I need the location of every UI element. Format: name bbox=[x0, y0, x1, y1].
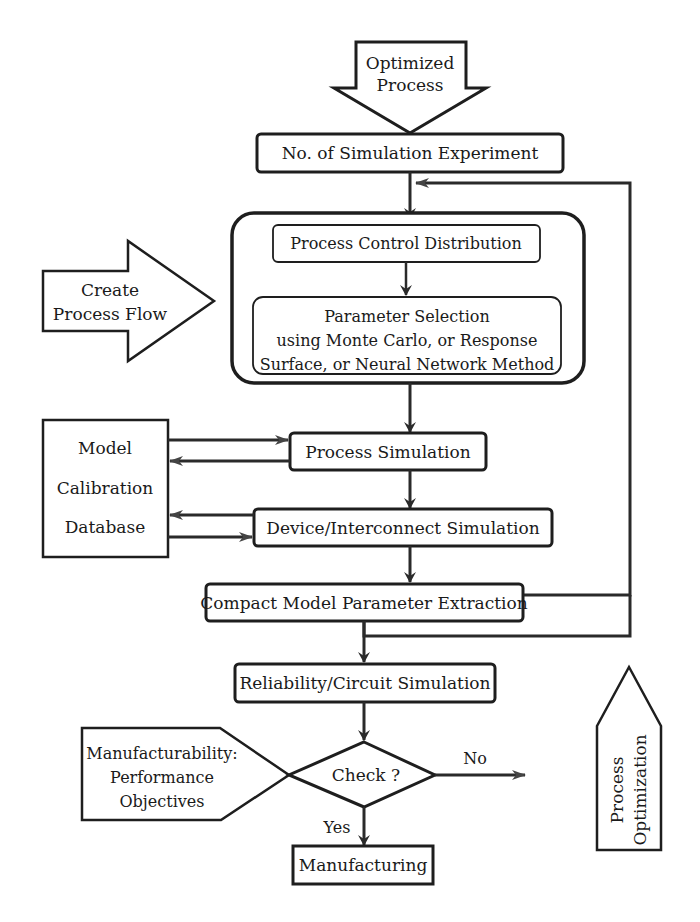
process-optimization-line1: Process bbox=[607, 757, 627, 824]
process-simulation-box: Process Simulation bbox=[290, 433, 486, 470]
create-process-flow-arrow: Create Process Flow bbox=[43, 241, 214, 361]
process-control-label: Process Control Distribution bbox=[290, 234, 521, 253]
model-calibration-database: Model Calibration Database bbox=[43, 420, 168, 557]
objectives-line3: Objectives bbox=[119, 792, 204, 811]
device-simulation-box: Device/Interconnect Simulation bbox=[254, 509, 552, 546]
process-optimization-line2: Optimization bbox=[630, 734, 650, 845]
create-process-flow-line2: Process Flow bbox=[53, 304, 168, 324]
objectives-shape: Manufacturability: Performance Objective… bbox=[82, 728, 289, 820]
check-decision: Check ? bbox=[289, 742, 435, 807]
manufacturing-label: Manufacturing bbox=[299, 855, 428, 875]
yes-label: Yes bbox=[323, 818, 351, 837]
simulation-experiment-box: No. of Simulation Experiment bbox=[257, 134, 563, 172]
optimized-process-line2: Process bbox=[377, 75, 444, 95]
optimized-process-arrow: Optimized Process bbox=[334, 42, 486, 133]
parameter-selection-line2: using Monte Carlo, or Response bbox=[277, 331, 538, 350]
manufacturing-box: Manufacturing bbox=[293, 846, 433, 884]
objectives-line1: Manufacturability: bbox=[86, 744, 237, 763]
flowchart: Optimized Process No. of Simulation Expe… bbox=[0, 0, 700, 922]
compact-model-label: Compact Model Parameter Extraction bbox=[200, 593, 527, 613]
optimized-process-line1: Optimized bbox=[366, 53, 455, 73]
parameter-selection-line1: Parameter Selection bbox=[324, 307, 490, 326]
simulation-experiment-label: No. of Simulation Experiment bbox=[282, 143, 539, 163]
parameter-selection-line3: Surface, or Neural Network Method bbox=[260, 355, 555, 374]
database-line3: Database bbox=[65, 517, 146, 537]
no-label: No bbox=[463, 749, 487, 768]
parameter-container: Process Control Distribution Parameter S… bbox=[232, 213, 584, 383]
process-simulation-label: Process Simulation bbox=[305, 442, 470, 462]
database-line2: Calibration bbox=[57, 478, 154, 498]
process-optimization-shape: Process Optimization bbox=[597, 667, 661, 850]
compact-model-box: Compact Model Parameter Extraction bbox=[200, 584, 527, 621]
device-simulation-label: Device/Interconnect Simulation bbox=[266, 518, 539, 538]
create-process-flow-line1: Create bbox=[81, 280, 139, 300]
reliability-box: Reliability/Circuit Simulation bbox=[235, 664, 495, 702]
check-label: Check ? bbox=[332, 765, 400, 785]
objectives-line2: Performance bbox=[110, 768, 214, 787]
reliability-label: Reliability/Circuit Simulation bbox=[239, 673, 490, 693]
database-line1: Model bbox=[78, 438, 132, 458]
